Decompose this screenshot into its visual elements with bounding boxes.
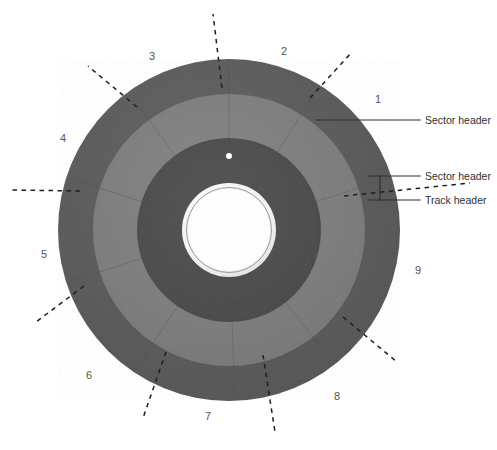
sector-number-8: 8 xyxy=(334,391,341,402)
disk-platter-diagram xyxy=(0,0,497,450)
sector-divider-3 xyxy=(88,66,137,107)
sector-number-5: 5 xyxy=(41,249,48,260)
sector-number-1: 1 xyxy=(375,94,382,105)
hub-assembly xyxy=(182,183,276,277)
hub-hole xyxy=(188,189,270,271)
callout-label-sector-header-outer: Sector header xyxy=(425,115,491,126)
sector-number-9: 9 xyxy=(415,265,422,276)
callout-label-track-header: Track header xyxy=(425,195,486,206)
sector-number-3: 3 xyxy=(149,51,156,62)
sector-divider-1 xyxy=(310,52,352,98)
sector-number-4: 4 xyxy=(60,133,67,144)
sector-number-2: 2 xyxy=(281,46,288,57)
index-hole xyxy=(226,153,232,159)
sector-number-6: 6 xyxy=(86,370,93,381)
sector-divider-4 xyxy=(12,190,80,191)
sector-number-7: 7 xyxy=(205,411,212,422)
callout-label-sector-header-inner: Sector header xyxy=(425,171,491,182)
